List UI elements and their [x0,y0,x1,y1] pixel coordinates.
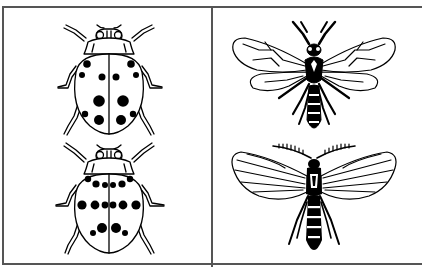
ladybird-12-spot-icon [4,8,211,136]
right-panel: wasp-like insects [213,8,418,265]
clearwing-moth-icon [213,136,418,264]
ladybird-16-spot-icon [4,135,211,263]
wasp-icon [213,8,418,136]
left-panel: ladybird beetles [4,8,211,265]
